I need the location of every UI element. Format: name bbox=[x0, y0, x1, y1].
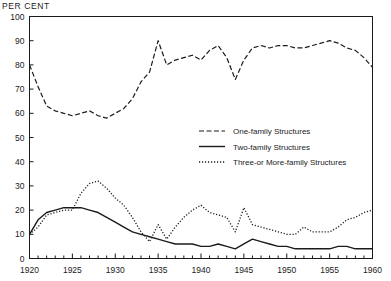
y-tick-label: 30 bbox=[15, 181, 25, 191]
x-tick-label: 1960 bbox=[363, 265, 382, 275]
x-axis-tick-labels: 192019251930193519401945195019551960 bbox=[20, 265, 382, 275]
x-tick-label: 1945 bbox=[234, 265, 253, 275]
series-line-3 bbox=[30, 181, 373, 242]
legend-label-3: Three-or More-family Structures bbox=[233, 158, 346, 167]
legend-label-2: Two-family Structures bbox=[233, 143, 310, 152]
data-series-group bbox=[30, 41, 373, 249]
y-tick-label: 10 bbox=[15, 229, 25, 239]
legend-label-1: One-family Structures bbox=[233, 127, 310, 136]
series-line-2 bbox=[30, 208, 373, 249]
chart-canvas: 0102030405060708090100 19201925193019351… bbox=[0, 0, 391, 281]
chart-legend: One-family StructuresTwo-family Structur… bbox=[199, 127, 346, 167]
x-tick-label: 1940 bbox=[192, 265, 211, 275]
chart-figure: PER CENT 0102030405060708090100 19201925… bbox=[0, 0, 391, 281]
axis-tick-marks bbox=[30, 41, 373, 259]
y-axis-tick-labels: 0102030405060708090100 bbox=[10, 12, 24, 264]
x-tick-label: 1930 bbox=[106, 265, 125, 275]
y-tick-label: 80 bbox=[15, 60, 25, 70]
x-tick-label: 1925 bbox=[63, 265, 82, 275]
plot-frame bbox=[30, 17, 373, 259]
y-tick-label: 40 bbox=[15, 157, 25, 167]
y-tick-label: 70 bbox=[15, 84, 25, 94]
y-tick-label: 60 bbox=[15, 108, 25, 118]
y-tick-label: 90 bbox=[15, 36, 25, 46]
x-tick-label: 1955 bbox=[320, 265, 339, 275]
x-tick-label: 1920 bbox=[20, 265, 39, 275]
x-tick-label: 1935 bbox=[149, 265, 168, 275]
y-tick-label: 0 bbox=[20, 254, 25, 264]
x-tick-label: 1950 bbox=[277, 265, 296, 275]
y-tick-label: 20 bbox=[15, 205, 25, 215]
y-tick-label: 50 bbox=[15, 133, 25, 143]
series-line-1 bbox=[30, 41, 373, 118]
y-tick-label: 100 bbox=[10, 12, 24, 22]
